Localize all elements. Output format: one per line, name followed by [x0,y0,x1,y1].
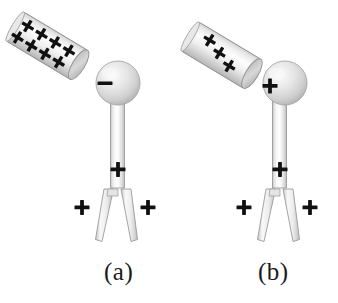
leaf-right [283,189,300,242]
leaf-left-charge-sign [75,200,90,215]
leaf-hinge [269,189,280,196]
leaf-right-charge-sign [303,200,318,215]
panel-a [4,10,156,241]
electroscope-leaves [96,189,138,242]
charged-rod [4,10,93,82]
knob-specular-highlight [102,68,119,81]
figure-root: (a) (b) [0,0,338,303]
leaf-right [121,189,138,242]
electroscope [75,61,156,242]
charged-rod [179,20,266,91]
minus-icon [98,82,113,86]
leaf-left-charge-sign [237,200,252,215]
leaf-left [96,189,114,242]
electroscope-leaves [258,189,300,242]
panel-label-b: (b) [258,258,289,286]
plus-icon-bar-v [308,200,312,215]
panel-label-a: (a) [104,258,133,286]
leaf-left [258,189,276,242]
plus-icon-bar-v [268,78,272,93]
plus-icon-bar-v [242,200,246,215]
plus-icon-bar-v [146,200,150,215]
knob-charge-sign [98,82,113,86]
panel-b [179,20,318,241]
electroscope [237,61,318,242]
plus-icon-bar-v [80,200,84,215]
leaf-hinge [107,189,118,196]
plus-icon-bar-v [116,162,120,177]
plus-icon-bar-v [278,162,282,177]
leaf-right-charge-sign [141,200,156,215]
